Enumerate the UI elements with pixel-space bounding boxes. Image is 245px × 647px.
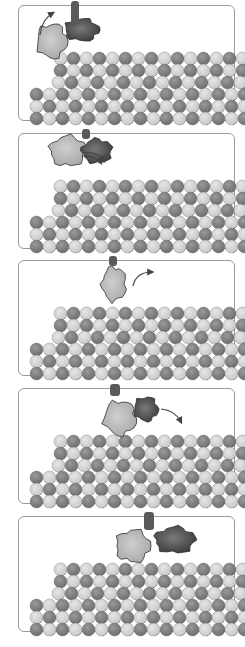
panel-2 [18,133,235,249]
microtubule [30,563,245,636]
panel-1 [18,5,235,121]
kinesin-motor [116,512,197,563]
step-arrow-icon [133,272,152,286]
motor-head-dark [154,525,197,553]
panel-4 [18,388,235,504]
kinesin-motor [102,384,181,437]
kinesin-motor [48,129,113,166]
panel-5 [18,516,235,632]
motor-head-dark [81,137,114,163]
step-arrow-icon [161,409,181,422]
kinesin-motor [100,256,152,304]
motor-stalk [144,512,154,530]
motor-head-dark [65,19,100,41]
motor-stalk [109,256,117,266]
microtubule [30,52,245,125]
kinesin-motor [37,1,100,59]
motor-head-light [102,400,137,437]
motor-stalk [71,1,79,25]
motor-stalk [82,129,90,139]
panel-3 [18,260,235,376]
microtubule [30,435,245,508]
microtubule [30,180,245,253]
kinesin-stepping-figure [0,0,245,647]
microtubule [30,307,245,380]
motor-head-light [100,266,127,304]
motor-head-dark [134,397,159,422]
motor-head-light [116,529,151,562]
motor-stalk [110,384,120,396]
